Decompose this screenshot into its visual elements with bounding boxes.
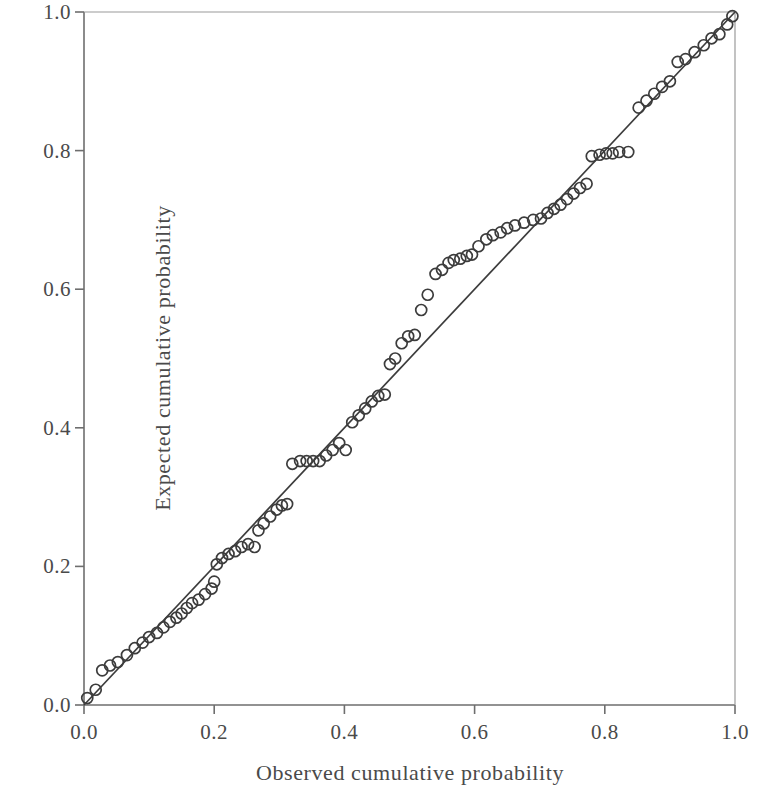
x-tick-label: 1.0 [721,720,749,745]
x-axis-title: Observed cumulative probability [256,760,564,786]
y-tick-label: 1.0 [32,0,71,25]
y-axis-title: Expected cumulative probability [150,205,176,511]
x-tick-label: 0.8 [591,720,619,745]
y-tick-label: 0.4 [32,415,71,440]
y-tick-label: 0.6 [32,277,71,302]
identity-reference-line [84,12,735,705]
pp-plot-figure: 0.00.20.40.60.81.0 0.00.20.40.60.81.0 Ob… [0,0,772,795]
y-tick-label: 0.2 [32,554,71,579]
x-tick-label: 0.6 [461,720,489,745]
y-tick-label: 0.8 [32,138,71,163]
x-tick-label: 0.0 [70,720,98,745]
chart-canvas [0,0,772,795]
x-tick-label: 0.4 [331,720,359,745]
y-tick-label: 0.0 [32,693,71,718]
x-tick-label: 0.2 [200,720,228,745]
